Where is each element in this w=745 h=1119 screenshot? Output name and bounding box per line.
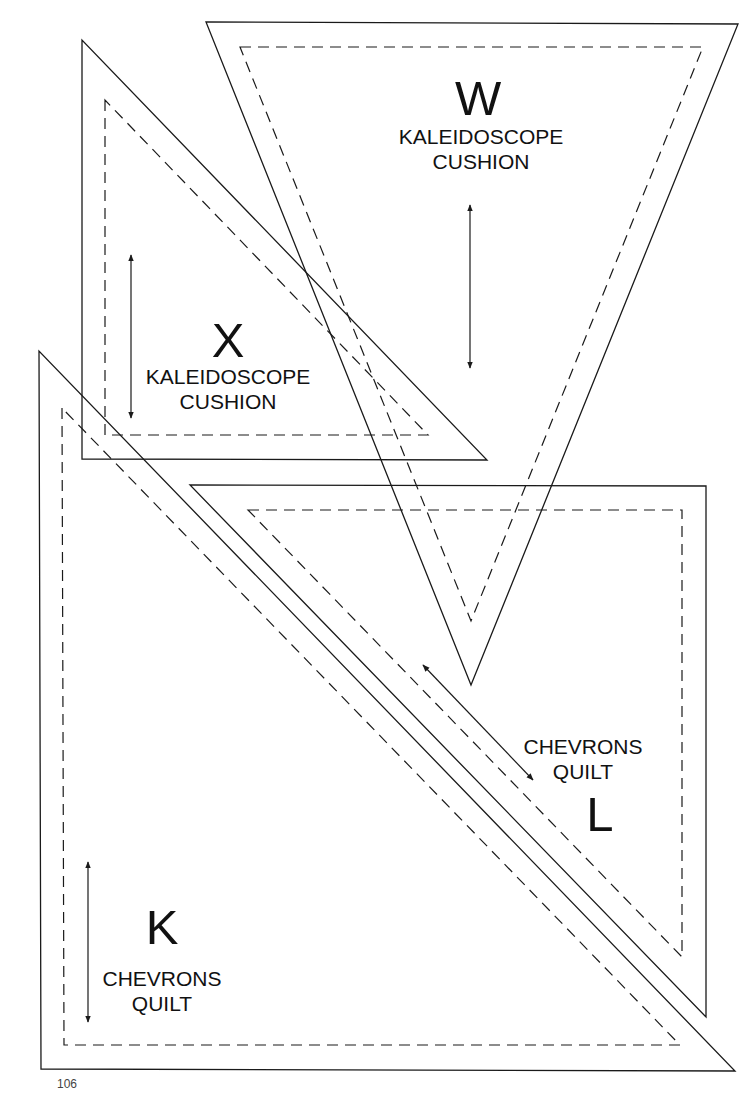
template-k-line2: QUILT — [102, 991, 221, 1016]
template-k-name: CHEVRONS QUILT — [102, 966, 221, 1016]
template-w-letter: W — [455, 74, 501, 123]
template-w-line2: CUSHION — [399, 149, 564, 174]
template-x-letter: X — [212, 316, 245, 365]
page-number: 106 — [57, 1077, 77, 1091]
template-w-name: KALEIDOSCOPE CUSHION — [399, 124, 564, 174]
template-l-line2: QUILT — [523, 759, 642, 784]
template-l-letter: L — [586, 790, 613, 839]
template-x-name: KALEIDOSCOPE CUSHION — [146, 364, 311, 414]
template-l-name: CHEVRONS QUILT — [523, 734, 642, 784]
template-w-line1: KALEIDOSCOPE — [399, 124, 564, 149]
pattern-sheet — [0, 0, 745, 1119]
template-l-line1: CHEVRONS — [523, 734, 642, 759]
template-l-grain-arrow-icon — [423, 665, 533, 780]
template-k-line1: CHEVRONS — [102, 966, 221, 991]
template-k-letter: K — [146, 903, 179, 952]
template-x-line1: KALEIDOSCOPE — [146, 364, 311, 389]
template-x-line2: CUSHION — [146, 389, 311, 414]
template-k-cut-line — [39, 351, 735, 1071]
